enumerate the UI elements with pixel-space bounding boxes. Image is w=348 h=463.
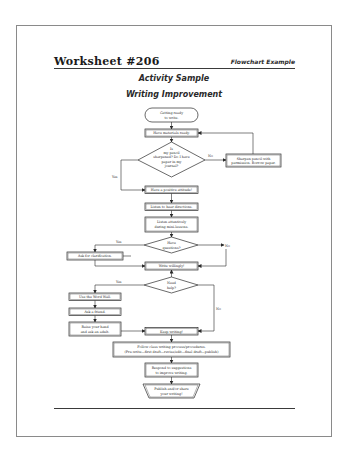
- svg-text:during mini-lessons.: during mini-lessons.: [155, 225, 189, 229]
- edge-label-no: No: [208, 154, 213, 158]
- flowchart: No Yes Yes No Yes No Getting ready to wr…: [0, 0, 348, 463]
- edge-label-yes: Yes: [115, 280, 122, 284]
- svg-text:Have a positive attitude!: Have a positive attitude!: [151, 188, 192, 192]
- node-process: Follow class writing process/procedures.…: [113, 342, 230, 357]
- edge-label-yes: Yes: [115, 240, 122, 244]
- svg-text:Ask a friend.: Ask a friend.: [83, 310, 105, 314]
- svg-text:permission. Borrow paper.: permission. Borrow paper.: [231, 161, 275, 165]
- svg-text:Keep writing!: Keep writing!: [160, 330, 183, 334]
- svg-text:(Pre-write—first draft—revise/: (Pre-write—first draft—revise/edit—final…: [125, 350, 220, 354]
- node-keep-writing: Keep writing!: [145, 328, 198, 336]
- edge-label-no: No: [216, 307, 221, 311]
- svg-text:and ask an adult.: and ask an adult.: [81, 330, 110, 334]
- node-sharpen: Sharpen pencil with permission. Borrow p…: [226, 154, 281, 167]
- svg-text:Need: Need: [167, 281, 177, 285]
- node-start: Getting ready to write.: [145, 108, 198, 122]
- svg-text:Follow class writing process/p: Follow class writing process/procedures.: [137, 345, 205, 349]
- svg-text:to write.: to write.: [164, 116, 178, 120]
- node-help-decision: Need help?: [144, 277, 198, 293]
- node-attentive: Listen attentively during mini-lessons.: [145, 217, 198, 232]
- node-questions-decision: Have questions?: [144, 237, 198, 253]
- edge-label-yes: Yes: [111, 175, 118, 179]
- svg-text:questions?: questions?: [163, 246, 181, 250]
- svg-text:Use the Word Wall.: Use the Word Wall.: [79, 295, 111, 299]
- svg-text:Have materials ready.: Have materials ready.: [153, 131, 190, 135]
- svg-text:to improve writing.: to improve writing.: [155, 371, 187, 375]
- node-publish: Publish and/or share your writing!: [143, 384, 200, 398]
- svg-text:help?: help?: [167, 286, 176, 290]
- node-directions: Listen to hear directions.: [145, 203, 198, 211]
- svg-text:journal?: journal?: [164, 164, 179, 168]
- edge-label-no: No: [225, 244, 230, 248]
- svg-text:Listen attentively: Listen attentively: [157, 220, 186, 224]
- node-attitude: Have a positive attitude!: [145, 186, 198, 194]
- svg-text:Getting ready: Getting ready: [160, 111, 183, 115]
- svg-text:Write willingly!: Write willingly!: [159, 264, 185, 268]
- svg-text:Listen to hear directions.: Listen to hear directions.: [150, 205, 192, 209]
- node-word-wall: Use the Word Wall.: [69, 293, 121, 301]
- svg-text:Ask for clarification.: Ask for clarification.: [77, 254, 112, 258]
- node-materials: Have materials ready.: [145, 129, 198, 137]
- node-pencil-decision: Is my pencil sharpened? Do I have paper …: [138, 142, 205, 177]
- svg-text:Have: Have: [167, 241, 176, 245]
- svg-text:Publish and/or share: Publish and/or share: [154, 387, 189, 391]
- node-clarification: Ask for clarification.: [67, 252, 123, 260]
- node-write: Write willingly!: [145, 262, 198, 270]
- svg-text:Sharpen pencil with: Sharpen pencil with: [237, 157, 272, 161]
- svg-text:Raise your hand: Raise your hand: [81, 325, 109, 329]
- svg-text:paper in my: paper in my: [162, 160, 182, 164]
- svg-text:your writing!: your writing!: [160, 392, 183, 396]
- node-respond: Respond to suggestions to improve writin…: [145, 363, 198, 377]
- svg-text:sharpened? Do I have: sharpened? Do I have: [153, 155, 189, 159]
- node-adult: Raise your hand and ask an adult.: [69, 322, 121, 336]
- node-friend: Ask a friend.: [69, 308, 121, 316]
- svg-text:Respond to suggestions: Respond to suggestions: [152, 366, 192, 370]
